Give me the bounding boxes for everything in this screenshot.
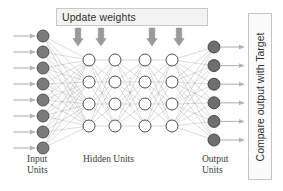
- connection-edges: [43, 36, 214, 148]
- compare-output-box: Compare output with Target: [248, 13, 272, 180]
- output-units-caption: Output Units: [202, 154, 228, 176]
- hidden-units-caption: Hidden Units: [83, 154, 134, 165]
- update-weights-label: Update weights: [57, 11, 136, 23]
- neural-network-diagram: Update weights Compare output with Targe…: [0, 0, 283, 191]
- compare-output-label: Compare output with Target: [254, 32, 266, 161]
- input-units-caption: Input Units: [27, 154, 48, 176]
- update-weights-box: Update weights: [56, 8, 208, 26]
- update-weight-arrows: [73, 28, 184, 46]
